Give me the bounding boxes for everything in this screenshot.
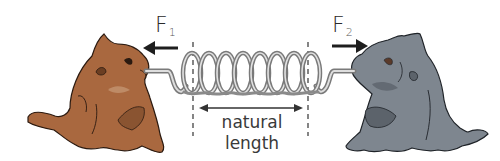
- natural-label-line2: length: [192, 135, 312, 152]
- force-symbol: F: [155, 12, 168, 37]
- force-label-f1: F1: [155, 14, 176, 36]
- force-label-f2: F2: [332, 14, 353, 36]
- force-subscript: 2: [346, 26, 353, 39]
- natural-length-arrow: [199, 104, 303, 112]
- force-symbol: F: [332, 12, 345, 37]
- force-subscript: 1: [169, 26, 176, 39]
- force-arrow-f2: [332, 39, 368, 53]
- natural-label-line1: natural: [192, 114, 312, 131]
- spring-diagram: F1 F2 natural length: [0, 0, 500, 161]
- spring: [146, 53, 354, 94]
- right-cat-illustration: [346, 33, 488, 151]
- left-cat-illustration: [28, 34, 164, 152]
- force-arrow-f1: [143, 41, 178, 55]
